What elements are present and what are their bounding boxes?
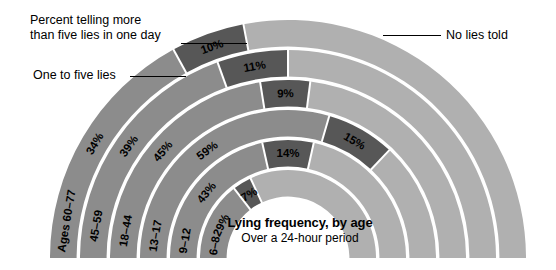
arc-label-more-than-five: 9% [277,87,294,99]
leader-line-more-than-five [181,43,247,44]
chart-subtitle: Over a 24-hour period [202,231,398,245]
chart-title: Lying frequency, by age [202,215,398,230]
leader-line-no-lies [383,35,441,36]
legend-label-one-to-five: One to five lies [33,68,116,83]
legend-label-more-than-five-line1: Percent telling more [30,13,161,28]
chart-title-block: Lying frequency, by age Over a 24-hour p… [202,215,398,245]
legend-label-more-than-five: Percent telling more than five lies in o… [30,13,161,43]
baseline-mask [0,258,556,270]
chart-canvas: 34%10%Ages 60–7739%11%45–5945%9%18–4459%… [0,0,556,270]
leader-line-one-to-five [130,76,186,77]
legend-label-more-than-five-line2: than five lies in one day [30,28,161,43]
arc-label-more-than-five: 14% [276,147,299,159]
legend-label-no-lies: No lies told [446,28,508,43]
